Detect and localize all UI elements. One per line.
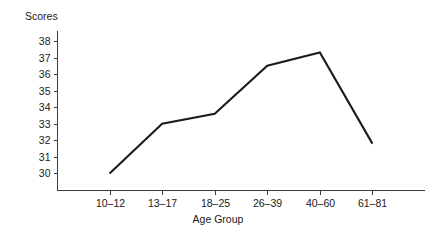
y-tick-label: 38: [27, 36, 51, 47]
x-tick-label: 61–81: [338, 198, 408, 209]
axis-lines: [57, 31, 425, 191]
y-tick-label: 33: [27, 119, 51, 130]
y-tick-label: 37: [27, 53, 51, 64]
y-tick-label: 30: [27, 168, 51, 179]
x-tick-marks: [111, 191, 373, 195]
x-axis-title: Age Group: [158, 213, 278, 225]
y-tick-label: 31: [27, 152, 51, 163]
y-tick-label: 35: [27, 86, 51, 97]
y-tick-label: 36: [27, 69, 51, 80]
y-tick-marks: [54, 42, 58, 174]
data-series-line: [110, 53, 373, 174]
y-tick-label: 32: [27, 135, 51, 146]
line-chart: Scores 303132333435363738 10–1213–1718–2…: [0, 0, 435, 240]
y-tick-label: 34: [27, 102, 51, 113]
